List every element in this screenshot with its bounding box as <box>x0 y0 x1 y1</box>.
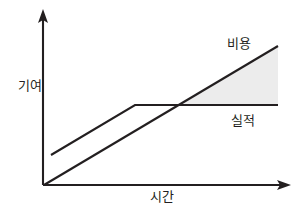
chart-figure: 기여 시간 비용 실적 <box>0 0 305 219</box>
y-axis-label: 기여 <box>18 78 42 93</box>
series-label-actual: 실적 <box>231 113 255 128</box>
chart-canvas <box>0 0 305 219</box>
x-axis-label: 시간 <box>150 189 174 204</box>
series-label-cost: 비용 <box>227 36 251 51</box>
